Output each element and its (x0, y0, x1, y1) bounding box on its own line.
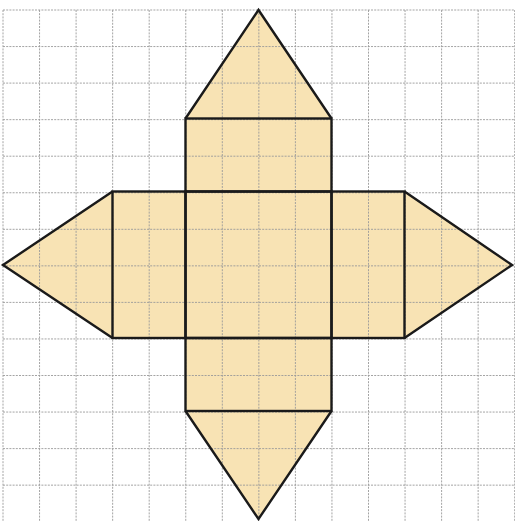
right-triangle-fill (405, 192, 513, 339)
net-fill (3, 10, 512, 519)
bottom-rectangle-fill (186, 338, 332, 411)
right-rectangle-fill (332, 192, 405, 339)
left-triangle-fill (3, 192, 113, 339)
pyramid-net-diagram (0, 0, 515, 521)
